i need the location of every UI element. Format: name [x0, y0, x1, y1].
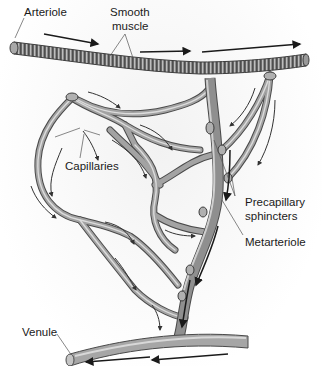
label-capillaries: Capillaries	[65, 160, 119, 173]
label-arteriole: Arteriole	[24, 6, 67, 19]
capillaries-network	[38, 75, 270, 318]
label-venule: Venule	[22, 326, 57, 339]
capillary-bed-diagram: Arteriole Smooth muscle Capillaries Prec…	[0, 0, 322, 366]
label-precapillary-line1: Precapillary	[245, 196, 305, 209]
label-smooth-muscle-line1: Smooth	[110, 6, 150, 19]
label-precapillary-line2: sphincters	[245, 210, 297, 223]
label-smooth-muscle-line2: muscle	[112, 20, 148, 33]
diagram-artwork	[0, 0, 322, 366]
label-metarteriole: Metarteriole	[245, 236, 306, 249]
